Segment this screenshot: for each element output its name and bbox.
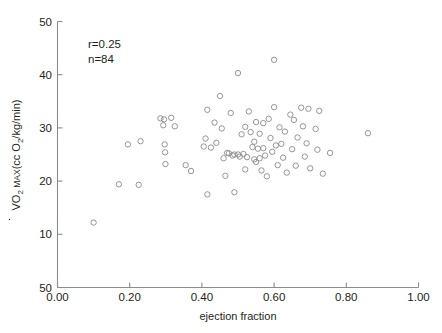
data-point bbox=[268, 135, 273, 140]
y-tick-label-10: 10 bbox=[39, 228, 52, 240]
data-point bbox=[365, 131, 370, 136]
data-point bbox=[313, 126, 318, 131]
data-point bbox=[221, 156, 226, 161]
y-title-tail: /kg/min) bbox=[10, 100, 22, 139]
data-point bbox=[273, 143, 278, 148]
x-tick-label-080: 0.80 bbox=[335, 291, 357, 303]
data-point bbox=[271, 57, 276, 62]
data-point bbox=[252, 139, 257, 144]
data-point bbox=[266, 116, 271, 121]
data-point bbox=[282, 129, 287, 134]
data-point bbox=[244, 154, 249, 159]
y-tick-label-30: 30 bbox=[39, 122, 52, 134]
data-point bbox=[320, 171, 325, 176]
y-tick-label-20: 20 bbox=[39, 175, 52, 187]
v-dot-accent-icon bbox=[9, 219, 10, 220]
data-point bbox=[203, 136, 208, 141]
y-title-max: MAX bbox=[12, 169, 22, 190]
data-point bbox=[214, 140, 219, 145]
data-point bbox=[277, 125, 282, 130]
data-point bbox=[243, 167, 248, 172]
data-point bbox=[161, 123, 166, 128]
data-point bbox=[161, 117, 166, 122]
data-point bbox=[241, 151, 246, 156]
y-tick-label-40: 40 bbox=[39, 69, 52, 81]
data-point bbox=[162, 142, 167, 147]
data-point bbox=[308, 166, 313, 171]
data-point bbox=[270, 149, 275, 154]
data-point bbox=[259, 168, 264, 173]
scatter-plot-figure: 50 40 30 20 10 50 0.00 0.20 0.40 0.60 0.… bbox=[0, 0, 442, 333]
x-tick-label-000: 0.00 bbox=[46, 291, 68, 303]
data-point bbox=[280, 155, 285, 160]
x-tick-label-060: 0.60 bbox=[263, 291, 285, 303]
data-point bbox=[302, 154, 307, 159]
data-point bbox=[163, 161, 168, 166]
data-point bbox=[261, 145, 266, 150]
data-point bbox=[188, 168, 193, 173]
data-point bbox=[304, 141, 309, 146]
data-point bbox=[205, 192, 210, 197]
data-point bbox=[235, 70, 240, 75]
annotation-correlation: r=0.25 bbox=[88, 38, 121, 50]
annotation-sample-size: n=84 bbox=[88, 53, 115, 65]
data-point bbox=[232, 190, 237, 195]
data-point bbox=[279, 141, 284, 146]
data-point bbox=[91, 220, 96, 225]
data-point bbox=[246, 109, 251, 114]
data-point bbox=[327, 150, 332, 155]
x-axis-title: ejection fraction bbox=[199, 310, 276, 322]
data-point-layer bbox=[91, 57, 371, 225]
data-point bbox=[239, 132, 244, 137]
data-point bbox=[250, 144, 255, 149]
data-point bbox=[169, 115, 174, 120]
data-point bbox=[253, 119, 258, 124]
data-point bbox=[208, 145, 213, 150]
data-point bbox=[284, 170, 289, 175]
data-point bbox=[228, 110, 233, 115]
data-point bbox=[219, 126, 224, 131]
data-point bbox=[217, 93, 222, 98]
data-point bbox=[125, 142, 130, 147]
data-point bbox=[243, 124, 248, 129]
y-axis-title-text: VO2 MAX(cc O2/kg/min) bbox=[10, 100, 25, 211]
y-axis-tick-labels: 50 40 30 20 10 50 bbox=[39, 16, 52, 294]
data-point bbox=[183, 162, 188, 167]
data-point bbox=[289, 146, 294, 151]
data-point bbox=[275, 162, 280, 167]
data-point bbox=[212, 120, 217, 125]
plot-canvas: 50 40 30 20 10 50 0.00 0.20 0.40 0.60 0.… bbox=[0, 0, 442, 333]
data-point bbox=[255, 146, 260, 151]
statistics-annotation: r=0.25 n=84 bbox=[88, 38, 121, 65]
data-point bbox=[298, 105, 303, 110]
data-point bbox=[205, 107, 210, 112]
data-point bbox=[257, 156, 262, 161]
y-axis-ticks bbox=[58, 22, 63, 288]
data-point bbox=[291, 117, 296, 122]
data-point bbox=[315, 147, 320, 152]
x-tick-label-100: 1.00 bbox=[407, 291, 429, 303]
data-point bbox=[264, 174, 269, 179]
data-point bbox=[288, 112, 293, 117]
data-point bbox=[293, 163, 298, 168]
data-point bbox=[116, 182, 121, 187]
data-point bbox=[136, 182, 141, 187]
data-point bbox=[261, 120, 266, 125]
y-title-ccO: (cc O bbox=[10, 143, 22, 170]
data-point bbox=[248, 129, 253, 134]
data-point bbox=[271, 104, 276, 109]
data-point bbox=[162, 150, 167, 155]
x-axis-tick-labels: 0.00 0.20 0.40 0.60 0.80 1.00 bbox=[46, 291, 429, 303]
data-point bbox=[223, 173, 228, 178]
data-point bbox=[172, 124, 177, 129]
data-point bbox=[295, 135, 300, 140]
x-axis-ticks bbox=[58, 283, 419, 288]
data-point bbox=[300, 124, 305, 129]
x-tick-label-040: 0.40 bbox=[191, 291, 213, 303]
x-tick-label-020: 0.20 bbox=[119, 291, 141, 303]
y-tick-label-50: 50 bbox=[39, 16, 52, 28]
data-point bbox=[262, 153, 267, 158]
data-point bbox=[317, 108, 322, 113]
data-point bbox=[201, 144, 206, 149]
data-point bbox=[138, 139, 143, 144]
